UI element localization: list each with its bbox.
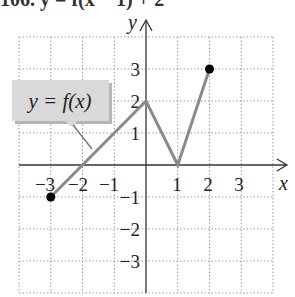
axes: [19, 20, 287, 293]
y-tick-label: −1: [120, 187, 140, 208]
x-tick-label: 3: [234, 174, 244, 195]
y-tick-label: 1: [131, 123, 141, 144]
x-tick-label: −1: [99, 174, 119, 195]
endpoint-closed: [46, 193, 55, 202]
x-tick-label: 1: [172, 174, 182, 195]
callout-label: y = f(x): [26, 89, 91, 113]
y-tick-label: 3: [131, 59, 141, 80]
x-tick-label: 2: [203, 174, 213, 195]
x-axis-label: x: [278, 172, 288, 194]
y-tick-label: −2: [120, 219, 140, 240]
endpoint-closed: [205, 65, 214, 74]
callout: y = f(x): [12, 80, 112, 149]
y-tick-label: −3: [120, 251, 140, 272]
graph: x y −3 −2 −1 1 2 3 3 2 1 −1 −2 −3 y = f(…: [0, 0, 295, 297]
y-axis-label: y: [126, 11, 137, 34]
x-tick-label: −3: [35, 174, 55, 195]
